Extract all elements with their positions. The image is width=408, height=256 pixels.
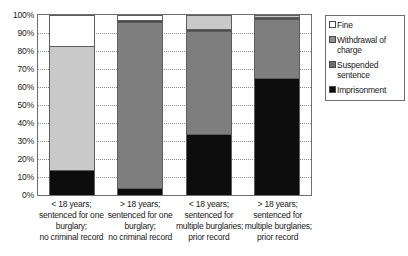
- bar-segment[interactable]: [187, 31, 231, 134]
- bar-segment[interactable]: [187, 15, 231, 29]
- bars-layer: [38, 15, 311, 195]
- y-tick-label: 10%: [18, 173, 34, 182]
- category-label-line: no criminal record: [38, 232, 104, 243]
- bar-segment[interactable]: [50, 15, 94, 46]
- category-label-line: prior record: [176, 232, 242, 243]
- category-label-line: sentenced for one: [38, 210, 104, 221]
- y-tick-label: 0%: [22, 191, 34, 200]
- bar-stack: [117, 15, 163, 195]
- y-tick-label: 70%: [18, 65, 34, 74]
- plot-area: [37, 14, 312, 196]
- bar-segment[interactable]: [187, 134, 231, 195]
- bar-segment[interactable]: [50, 46, 94, 170]
- bar-segment[interactable]: [255, 78, 299, 195]
- legend-item[interactable]: Suspended sentence: [329, 60, 402, 80]
- bar-segment[interactable]: [118, 188, 162, 195]
- category-label-line: sentenced for: [176, 210, 242, 221]
- legend: FineWithdrawal of chargeSuspended senten…: [325, 15, 405, 101]
- legend-item[interactable]: Fine: [329, 20, 402, 30]
- category-label-line: burglary;: [107, 221, 173, 232]
- bar-column[interactable]: [49, 15, 95, 195]
- legend-item-label: Withdrawal of charge: [337, 35, 402, 55]
- category-label-line: multiple burglaries;: [245, 221, 311, 232]
- y-tick-label: 80%: [18, 47, 34, 56]
- legend-swatch-icon: [329, 61, 336, 68]
- x-axis-category-label: < 18 years;sentenced formultiple burglar…: [176, 199, 242, 255]
- y-tick-label: 30%: [18, 137, 34, 146]
- category-label-line: prior record: [245, 232, 311, 243]
- category-label-line: burglary;: [38, 221, 104, 232]
- category-label-line: no criminal record: [107, 232, 173, 243]
- category-label-line: sentenced for one: [107, 210, 173, 221]
- bar-column[interactable]: [186, 15, 232, 195]
- x-axis-category-label: > 18 years;sentenced for oneburglary;no …: [107, 199, 173, 255]
- bar-stack: [254, 15, 300, 195]
- category-label-line: > 18 years;: [245, 199, 311, 210]
- bar-segment[interactable]: [50, 170, 94, 195]
- legend-swatch-icon: [329, 21, 336, 28]
- category-label-line: < 18 years;: [38, 199, 104, 210]
- y-tick-label: 90%: [18, 29, 34, 38]
- bar-column[interactable]: [117, 15, 163, 195]
- legend-item-label: Imprisonment: [337, 85, 386, 95]
- y-tick-label: 40%: [18, 119, 34, 128]
- legend-swatch-icon: [329, 86, 336, 93]
- x-axis-category-labels: < 18 years;sentenced for oneburglary;no …: [37, 199, 312, 255]
- category-label-line: > 18 years;: [107, 199, 173, 210]
- legend-item[interactable]: Withdrawal of charge: [329, 35, 402, 55]
- y-tick-label: 100%: [13, 11, 34, 20]
- y-tick-label: 50%: [18, 101, 34, 110]
- y-tick-label: 60%: [18, 83, 34, 92]
- bar-stack: [49, 15, 95, 195]
- bar-segment[interactable]: [255, 19, 299, 78]
- bar-stack: [186, 15, 232, 195]
- legend-swatch-icon: [329, 36, 336, 43]
- category-label-line: multiple burglaries;: [176, 221, 242, 232]
- y-tick-label: 20%: [18, 155, 34, 164]
- x-axis-category-label: > 18 years;sentenced formultiple burglar…: [245, 199, 311, 255]
- legend-item[interactable]: Imprisonment: [329, 85, 402, 95]
- category-label-line: sentenced for: [245, 210, 311, 221]
- x-axis-category-label: < 18 years;sentenced for oneburglary;no …: [38, 199, 104, 255]
- y-axis: 100%90%80%70%60%50%40%30%20%10%0%: [0, 14, 36, 196]
- bar-column[interactable]: [254, 15, 300, 195]
- stacked-bar-chart: 100%90%80%70%60%50%40%30%20%10%0% < 18 y…: [0, 0, 408, 256]
- legend-item-label: Fine: [337, 20, 353, 30]
- legend-item-label: Suspended sentence: [337, 60, 402, 80]
- bar-segment[interactable]: [118, 22, 162, 188]
- category-label-line: < 18 years;: [176, 199, 242, 210]
